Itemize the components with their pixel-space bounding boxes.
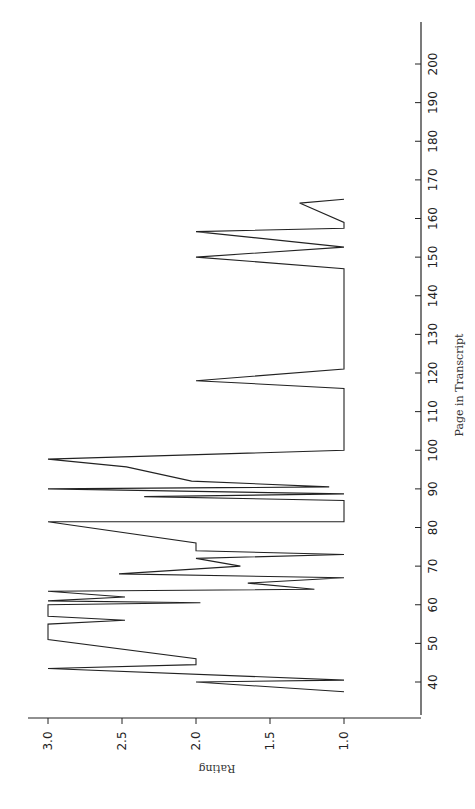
x-axis-title: Page in Transcript bbox=[453, 333, 466, 436]
x-tick-label: 140 bbox=[426, 284, 440, 307]
y-axis-ticks: 3.02.52.01.51.0 bbox=[41, 718, 351, 751]
rating-line-chart: 4050607080901001101201301401501601701801… bbox=[0, 0, 475, 809]
x-tick-label: 190 bbox=[426, 91, 440, 114]
y-tick-label: 2.5 bbox=[115, 731, 129, 750]
x-tick-label: 90 bbox=[426, 481, 440, 496]
y-tick-label: 1.0 bbox=[337, 731, 351, 750]
y-tick-label: 1.5 bbox=[263, 731, 277, 750]
x-tick-label: 100 bbox=[426, 439, 440, 462]
x-axis-ticks: 4050607080901001101201301401501601701801… bbox=[415, 53, 440, 690]
x-tick-label: 80 bbox=[426, 520, 440, 535]
rating-series-line bbox=[48, 199, 344, 692]
x-tick-label: 120 bbox=[426, 362, 440, 385]
x-tick-label: 50 bbox=[426, 636, 440, 651]
x-tick-label: 130 bbox=[426, 323, 440, 346]
x-tick-label: 40 bbox=[426, 674, 440, 689]
x-tick-label: 170 bbox=[426, 168, 440, 191]
y-tick-label: 2.0 bbox=[189, 731, 203, 750]
x-tick-label: 70 bbox=[426, 558, 440, 573]
x-tick-label: 160 bbox=[426, 207, 440, 230]
y-axis-title: Rating bbox=[198, 762, 235, 775]
x-tick-label: 200 bbox=[426, 53, 440, 76]
x-tick-label: 180 bbox=[426, 130, 440, 153]
x-tick-label: 110 bbox=[426, 400, 440, 423]
y-tick-label: 3.0 bbox=[41, 731, 55, 750]
x-tick-label: 60 bbox=[426, 597, 440, 612]
x-tick-label: 150 bbox=[426, 246, 440, 269]
